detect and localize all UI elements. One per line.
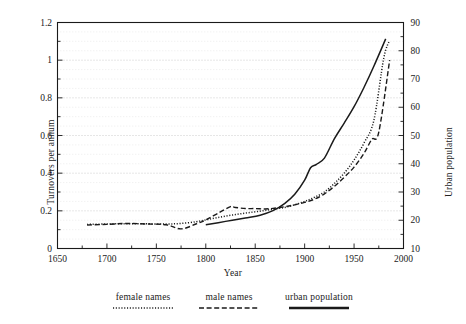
legend-label: male names [206,292,253,302]
legend-label: female names [116,292,171,302]
legend-entry[interactable]: urban population [285,292,353,310]
legend-swatch-dashed [199,306,259,310]
legend-entry[interactable]: female names [113,292,173,310]
legend-label: urban population [285,292,353,302]
series-line-urban-population [206,39,386,225]
grid-lines [58,32,404,239]
legend-entry[interactable]: male names [199,292,259,310]
legend-swatch-dotted [113,306,173,310]
legend-swatch-solid [289,306,349,310]
chart-legend: female namesmale namesurban population [0,292,466,310]
line-chart: Turnovers per annum Urban population Yea… [0,0,466,324]
series-line-female-names [87,40,390,224]
data-series [87,39,390,229]
plot-area [0,0,466,324]
series-line-male-names [87,60,390,229]
